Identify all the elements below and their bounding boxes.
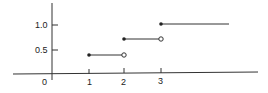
closed-dot-1 (87, 53, 91, 57)
x-label-2: 2 (121, 77, 126, 87)
x-label-3: 3 (158, 76, 163, 86)
y-label-1-0: 1.0 (35, 20, 48, 30)
closed-dot-3 (159, 22, 163, 26)
x-label-1: 1 (87, 77, 92, 87)
x-axis (13, 72, 258, 74)
step-function-chart: 0 1 2 3 1.0 0.5 (0, 0, 268, 93)
closed-dot-2 (122, 37, 126, 41)
open-dot-2 (159, 37, 163, 41)
y-label-0-5: 0.5 (35, 45, 48, 55)
open-dot-1 (122, 53, 126, 57)
origin-label: 0 (42, 77, 47, 87)
